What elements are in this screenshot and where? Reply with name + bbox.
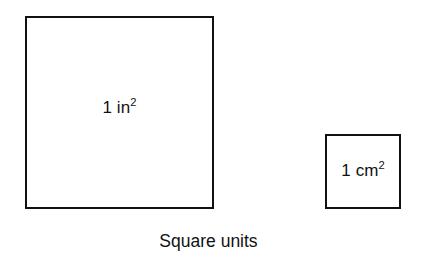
square-centimeter-label: 1 cm2 [327,162,399,179]
square-centimeter-label-base: 1 cm [341,161,378,180]
square-inch-shape: 1 in2 [25,16,214,209]
square-centimeter-label-exponent: 2 [379,159,385,171]
figure-caption: Square units [0,231,417,252]
square-inch-label-exponent: 2 [130,96,136,108]
square-inch-label: 1 in2 [27,99,212,116]
square-units-figure: 1 in2 1 cm2 Square units [0,0,423,265]
square-inch-label-base: 1 in [102,98,130,117]
square-centimeter-shape: 1 cm2 [325,134,401,209]
